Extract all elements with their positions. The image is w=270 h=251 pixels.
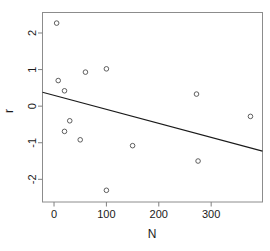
- data-point: [78, 138, 83, 143]
- x-axis-title: N: [148, 227, 157, 241]
- data-point: [67, 118, 72, 123]
- y-axis-ticks: [38, 33, 43, 179]
- y-axis-tick-labels: -2-1012: [26, 30, 38, 184]
- x-tick-label: 100: [97, 208, 115, 220]
- data-point: [56, 78, 61, 83]
- data-point: [248, 114, 253, 119]
- data-points: [54, 21, 252, 193]
- x-tick-label: 300: [202, 208, 220, 220]
- data-point: [104, 188, 109, 193]
- x-tick-label: 200: [150, 208, 168, 220]
- x-axis-tick-labels: 0100200300: [51, 208, 220, 220]
- data-point: [196, 159, 201, 164]
- y-tick-label: -1: [27, 138, 39, 148]
- y-tick-label: -2: [27, 174, 39, 184]
- plot-border: [43, 13, 263, 203]
- scatter-plot-figure: 0100200300 -2-1012 N r: [0, 0, 270, 251]
- data-point: [62, 129, 67, 134]
- data-point: [83, 70, 88, 75]
- y-tick-label: 0: [27, 103, 39, 109]
- regression-line-segment: [43, 92, 263, 151]
- y-axis-title: r: [2, 109, 16, 113]
- plot-frame: [43, 13, 263, 203]
- data-point: [62, 88, 67, 93]
- x-tick-label: 0: [51, 208, 57, 220]
- plot-canvas: 0100200300 -2-1012 N r: [0, 0, 270, 251]
- data-point: [130, 143, 135, 148]
- data-point: [54, 21, 59, 26]
- y-tick-label: 2: [26, 30, 38, 36]
- regression-line: [43, 92, 263, 151]
- x-axis-ticks: [54, 202, 211, 207]
- data-point: [104, 67, 109, 72]
- data-point: [194, 92, 199, 97]
- y-tick-label: 1: [27, 67, 39, 73]
